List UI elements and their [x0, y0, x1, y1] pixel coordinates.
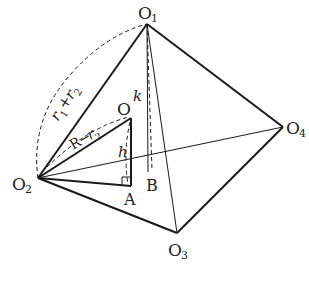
- svg-text:O: O: [286, 118, 300, 138]
- svg-text:O: O: [12, 174, 26, 194]
- label-k: k: [133, 87, 142, 105]
- edge-O1-O4: [147, 24, 283, 127]
- svg-text:1: 1: [151, 12, 158, 25]
- label-h: h: [118, 143, 128, 161]
- edge-O2-A: [38, 178, 131, 186]
- svg-text:3: 3: [181, 249, 188, 262]
- label-B: B: [146, 176, 158, 195]
- svg-text:4: 4: [299, 127, 306, 140]
- label-O1: O 1: [138, 3, 158, 25]
- label-O: O: [117, 99, 131, 119]
- tetrahedron-diagram: O 1 O 2 O 3 O 4 O A B k h r 1 + r 2 R − …: [0, 0, 309, 282]
- right-angle-marker: [122, 177, 131, 185]
- svg-text:O: O: [168, 240, 182, 260]
- label-A: A: [123, 190, 136, 209]
- label-r1-plus-r2: r 1 + r 2: [46, 81, 84, 125]
- edge-O3-O4: [177, 127, 283, 233]
- label-R-minus-r2: R − r 2: [67, 123, 104, 155]
- svg-text:2: 2: [25, 183, 32, 196]
- label-O4: O 4: [286, 118, 306, 140]
- svg-text:O: O: [138, 3, 152, 23]
- label-O3: O 3: [168, 240, 188, 262]
- label-O2: O 2: [12, 174, 32, 196]
- edge-O1-O3: [147, 24, 177, 233]
